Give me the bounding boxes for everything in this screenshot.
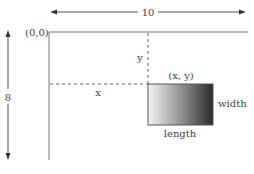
arrow-left-icon	[50, 10, 57, 15]
rect-length-label: length	[164, 128, 197, 139]
vertical-dimension-label: 8	[5, 92, 11, 103]
y-offset-label: y	[136, 52, 143, 63]
arrow-up-icon	[6, 30, 11, 37]
origin-label: (0,0)	[25, 27, 49, 38]
horizontal-dimension-label: 10	[142, 7, 155, 18]
x-offset-label: x	[95, 87, 101, 98]
coordinate-diagram: 10 8 (0,0) y x (x, y) width length	[0, 0, 254, 174]
rect-width-label: width	[218, 98, 247, 109]
arrow-down-icon	[6, 153, 11, 160]
gradient-rectangle	[148, 84, 213, 125]
corner-label: (x, y)	[168, 70, 194, 81]
arrow-right-icon	[239, 10, 246, 15]
